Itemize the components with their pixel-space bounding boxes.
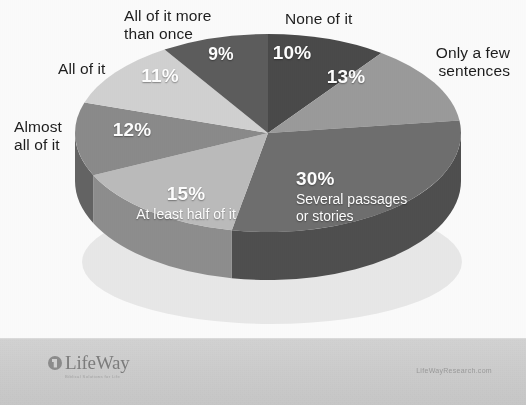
lifeway-wordmark: LifeWay [65,353,130,373]
chart-frame: 10% 13% 30% Several passages or stories … [0,0,526,405]
callout-none-of-it: None of it [285,10,352,28]
lifeway-logo-icon [48,356,62,370]
site-url-text: LifeWayResearch.com [416,367,492,374]
callout-only-a-few-sentences: Only a few sentences [370,44,510,81]
callout-all-of-it-more-than-once: All of it more than once [124,7,254,44]
lifeway-logo[interactable]: LifeWay Biblical Solutions for Life [48,353,130,380]
lifeway-tagline: Biblical Solutions for Life [65,374,130,380]
footer-band: LifeWay Biblical Solutions for Life Life… [0,338,526,405]
lifeway-logo-text: LifeWay Biblical Solutions for Life [65,353,130,380]
callout-all-of-it: All of it [58,60,105,78]
pie-chart: 10% 13% 30% Several passages or stories … [0,0,526,340]
callout-almost-all-of-it: Almost all of it [14,118,104,155]
